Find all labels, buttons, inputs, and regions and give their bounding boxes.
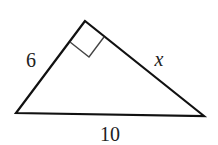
triangle bbox=[16, 21, 204, 116]
triangle-diagram: 6 x 10 bbox=[0, 0, 218, 145]
right-angle-marker bbox=[70, 37, 104, 57]
left-leg-label: 6 bbox=[26, 49, 36, 71]
hypotenuse-label: 10 bbox=[100, 123, 120, 145]
right-leg-label: x bbox=[154, 48, 164, 70]
